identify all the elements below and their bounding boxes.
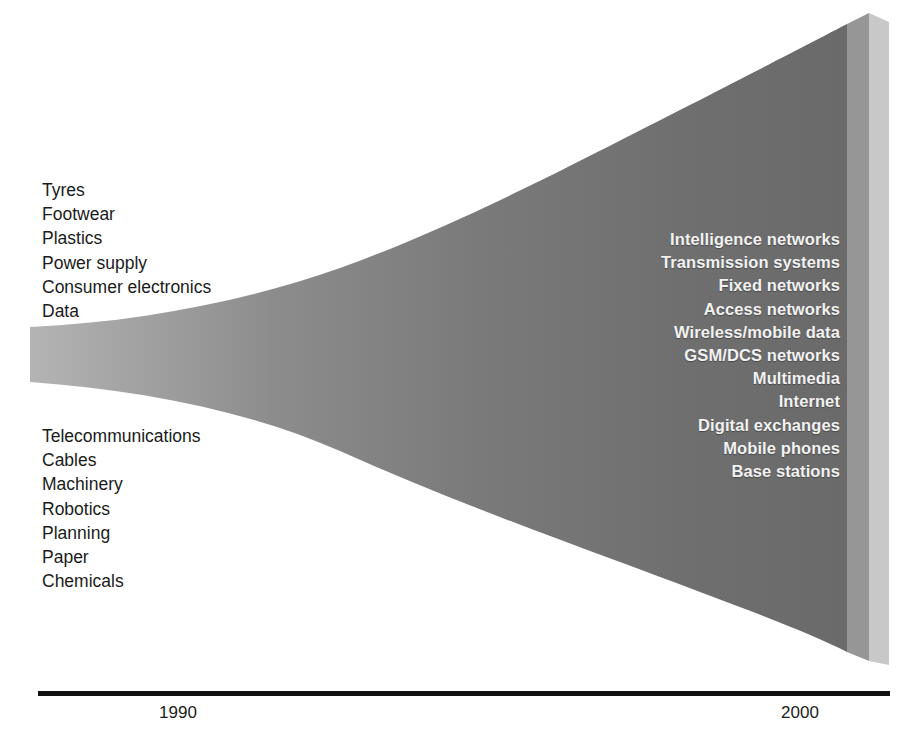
list-item: Planning [42,521,201,545]
funnel-end-bands [847,13,889,665]
list-item: Fixed networks [661,274,840,297]
funnel-diagram-figure: Tyres Footwear Plastics Power supply Con… [0,0,908,747]
timeline-axis-line [38,691,890,696]
list-item: Digital exchanges [661,414,840,437]
list-item: Footwear [42,202,211,226]
axis-tick-label-1990: 1990 [159,703,197,723]
list-item: GSM/DCS networks [661,344,840,367]
band-light-gray [869,13,889,665]
band-medium-gray [847,13,869,661]
axis-tick-label-2000: 2000 [781,703,819,723]
list-item: Paper [42,545,201,569]
list-item: Robotics [42,497,201,521]
list-item: Data [42,299,211,323]
list-item: Plastics [42,226,211,250]
list-item: Machinery [42,472,201,496]
list-item: Internet [661,390,840,413]
list-item: Telecommunications [42,424,201,448]
legacy-top-label-list: Tyres Footwear Plastics Power supply Con… [42,178,211,323]
list-item: Consumer electronics [42,275,211,299]
list-item: Base stations [661,460,840,483]
list-item: Intelligence networks [661,228,840,251]
list-item: Power supply [42,251,211,275]
future-label-list: Intelligence networks Transmission syste… [661,228,840,483]
list-item: Multimedia [661,367,840,390]
list-item: Wireless/mobile data [661,321,840,344]
list-item: Transmission systems [661,251,840,274]
list-item: Chemicals [42,569,201,593]
list-item: Tyres [42,178,211,202]
list-item: Mobile phones [661,437,840,460]
legacy-bottom-label-list: Telecommunications Cables Machinery Robo… [42,424,201,593]
list-item: Access networks [661,298,840,321]
list-item: Cables [42,448,201,472]
